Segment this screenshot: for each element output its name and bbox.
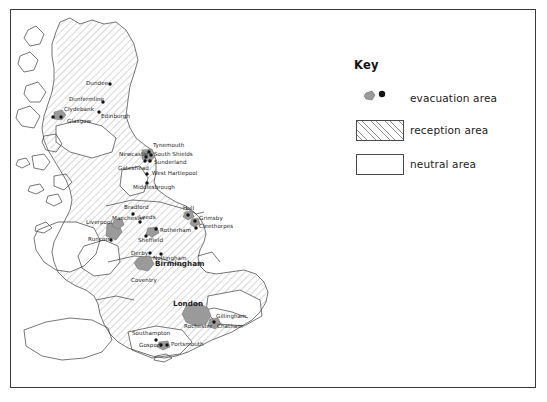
city-label-gosport: Gosport [139, 343, 162, 349]
city-label-coventry: Coventry [131, 278, 157, 284]
city-label-rotherham: Rotherham [160, 228, 191, 234]
city-label-cleethorpes: Cleethorpes [199, 224, 233, 230]
map-key: Key evacuation area reception area neutr… [352, 58, 522, 184]
screenshot-root: Dundee Dunfermline Clydebank Edinburgh G… [0, 0, 547, 402]
city-label-leeds: Leeds [139, 215, 156, 221]
city-label-dunfermline: Dunfermline [69, 97, 104, 103]
city-label-chatham: Chatham [217, 324, 243, 330]
city-label-southampton: Southampton [132, 331, 170, 337]
key-label-reception-area: reception area [410, 124, 488, 136]
city-label-grimsby: Grimsby [199, 216, 223, 222]
neutral-swatch-icon [356, 154, 404, 175]
city-label-gateshead: Gateshead [118, 166, 149, 172]
city-label-hull: Hull [183, 206, 194, 212]
key-label-evacuation-area: evacuation area [410, 92, 497, 104]
city-label-london: London [173, 300, 203, 307]
city-label-middlesbrough: Middlesbrough [133, 185, 175, 191]
reception-swatch-icon [356, 120, 404, 141]
evacuation-symbol-icon [362, 89, 402, 103]
city-label-bradford: Bradford [124, 205, 149, 211]
key-label-neutral-area: neutral area [410, 158, 476, 170]
city-label-south-shields: South Shields [154, 152, 193, 158]
city-label-portsmouth: Portsmouth [171, 342, 204, 348]
key-row-neutral-area: neutral area [352, 154, 522, 178]
city-label-derby: Derby [131, 251, 148, 257]
key-title: Key [354, 58, 379, 72]
city-label-liverpool: Liverpool [86, 220, 112, 226]
city-label-gillingham: Gillingham [216, 314, 247, 320]
city-label-birmingham: Birmingham [155, 260, 205, 267]
city-label-sheffield: Sheffield [138, 238, 163, 244]
city-label-edinburgh: Edinburgh [101, 114, 130, 120]
city-label-sunderland: Sunderland [154, 160, 187, 166]
city-label-clydebank: Clydebank [64, 107, 94, 113]
city-label-west-hartlepool: West Hartlepool [152, 171, 197, 177]
key-row-evacuation-area: evacuation area [352, 88, 522, 112]
city-label-rochester: Rochester [184, 324, 212, 330]
city-label-glasgow: Glasgow [67, 119, 91, 125]
city-label-newcastle: Newcastle [119, 152, 148, 158]
city-label-runcorn: Runcorn [88, 237, 111, 243]
city-label-tynemouth: Tynemouth [153, 143, 184, 149]
key-row-reception-area: reception area [352, 120, 522, 144]
city-label-dundee: Dundee [86, 81, 108, 87]
